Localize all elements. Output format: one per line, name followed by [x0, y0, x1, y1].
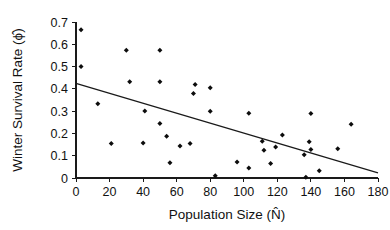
y-tick-label: 0.2 [51, 127, 68, 141]
y-tick-label: 0.5 [51, 60, 68, 74]
data-point-marker [235, 159, 240, 164]
x-axis-ticks: 020406080100120140160180 [73, 178, 389, 199]
x-tick-label: 80 [203, 185, 217, 199]
data-point-marker [273, 145, 278, 150]
regression-trendline [76, 83, 378, 173]
x-axis-group: 020406080100120140160180 [73, 178, 389, 199]
scatter-plot-figure: 00.10.20.30.40.50.60.7 02040608010012014… [0, 0, 390, 230]
y-axis-title: Winter Survival Rate (ϕ̂) [10, 28, 25, 171]
data-point-marker [193, 82, 198, 87]
chart-canvas: 00.10.20.30.40.50.60.7 02040608010012014… [0, 0, 390, 230]
data-point-marker [191, 91, 196, 96]
data-point-marker [349, 122, 354, 127]
data-point-marker [246, 165, 251, 170]
data-point-marker [124, 48, 129, 53]
data-point-marker [79, 64, 84, 69]
data-point-marker [308, 147, 313, 152]
trendline-segment [76, 83, 378, 173]
y-tick-label: 0.1 [51, 149, 68, 163]
data-point-marker [141, 141, 146, 146]
data-point-marker [307, 139, 312, 144]
x-tick-label: 20 [103, 185, 117, 199]
data-point-marker [79, 27, 84, 32]
y-tick-label: 0.6 [51, 38, 68, 52]
y-axis-ticks: 00.10.20.30.40.50.60.7 [51, 16, 76, 186]
data-point-marker [303, 175, 308, 180]
data-point-marker [109, 141, 114, 146]
data-point-marker [302, 152, 307, 157]
x-tick-label: 60 [170, 185, 184, 199]
x-tick-label: 0 [73, 185, 80, 199]
x-tick-label: 40 [136, 185, 150, 199]
data-point-marker [317, 168, 322, 173]
data-point-marker [261, 148, 266, 153]
y-tick-label: 0.3 [51, 105, 68, 119]
data-point-marker [208, 85, 213, 90]
data-point-marker [188, 141, 193, 146]
x-tick-label: 180 [368, 185, 389, 199]
y-tick-label: 0.4 [51, 82, 68, 96]
data-point-marker [142, 108, 147, 113]
data-point-marker [127, 79, 132, 84]
data-point-marker [335, 146, 340, 151]
data-point-marker [95, 101, 100, 106]
data-point-marker [268, 161, 273, 166]
y-tick-label: 0 [61, 172, 68, 186]
x-tick-label: 140 [300, 185, 321, 199]
y-tick-label: 0.7 [51, 16, 68, 30]
x-tick-label: 100 [233, 185, 254, 199]
x-tick-label: 160 [334, 185, 355, 199]
x-axis-title: Population Size (N̂) [169, 207, 285, 222]
data-point-marker [164, 134, 169, 139]
y-axis-group: 00.10.20.30.40.50.60.7 [51, 16, 76, 186]
data-point-marker [208, 109, 213, 114]
data-point-marker [308, 111, 313, 116]
data-point-marker [167, 160, 172, 165]
data-point-marker [157, 79, 162, 84]
data-point-marker [157, 48, 162, 53]
data-point-marker [178, 143, 183, 148]
data-point-marker [246, 111, 251, 116]
data-point-marker [157, 121, 162, 126]
x-tick-label: 120 [267, 185, 288, 199]
data-points-group [79, 27, 354, 180]
data-point-marker [280, 132, 285, 137]
